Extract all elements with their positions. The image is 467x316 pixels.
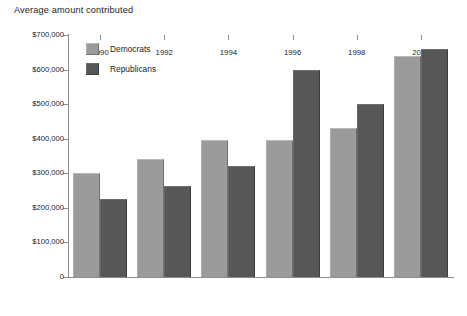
bar-1996-democrats [266, 140, 293, 277]
legend-swatch-democrats [86, 43, 99, 55]
legend-item-democrats: Democrats [86, 41, 156, 57]
legend-swatch-republicans [86, 63, 99, 75]
bar-1990-republicans [100, 199, 127, 277]
chart-title: Average amount contributed [14, 5, 133, 15]
y-axis-tick-label: $100,000 [32, 237, 64, 246]
y-axis-tick-label: $500,000 [32, 99, 64, 108]
bar-1996-republicans [293, 70, 320, 277]
bar-1998-democrats [330, 128, 357, 277]
x-axis-line [68, 277, 454, 278]
y-axis-tick-label: $700,000 [32, 30, 64, 39]
bar-1994-republicans [228, 166, 255, 277]
bar-1992-democrats [137, 159, 164, 277]
legend-label-democrats: Democrats [110, 44, 151, 54]
y-axis-tick-label: $300,000 [32, 168, 64, 177]
legend-label-republicans: Republicans [110, 64, 156, 74]
bar-2000-republicans [421, 49, 448, 277]
bar-2000-democrats [394, 56, 421, 277]
legend-item-republicans: Republicans [86, 61, 156, 77]
bar-1998-republicans [357, 104, 384, 277]
bar-1994-democrats [201, 140, 228, 277]
x-axis-tick-mark [100, 35, 101, 40]
x-axis-tick-mark [357, 35, 358, 40]
x-axis-tick-mark [228, 35, 229, 40]
x-axis-tick-label: 1996 [284, 48, 301, 57]
chart-legend: DemocratsRepublicans [86, 41, 156, 81]
x-axis-tick-label: 1994 [220, 48, 237, 57]
bar-chart-figure: Average amount contributed 0$100,000$200… [0, 0, 467, 316]
y-axis-tick-label: $400,000 [32, 134, 64, 143]
x-axis-tick-mark [164, 35, 165, 40]
x-axis-tick-mark [293, 35, 294, 40]
x-axis-tick-label: 1992 [156, 48, 173, 57]
y-axis-tick-label: 0 [60, 272, 64, 281]
bar-1990-democrats [73, 173, 100, 277]
y-axis-tick-label: $200,000 [32, 203, 64, 212]
x-axis-tick-label: 1998 [348, 48, 365, 57]
bar-1992-republicans [164, 186, 191, 277]
x-axis-tick-mark [421, 35, 422, 40]
y-axis-tick-label: $600,000 [32, 65, 64, 74]
